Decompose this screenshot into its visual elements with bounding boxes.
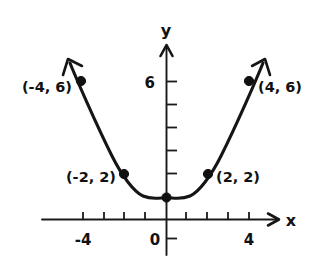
x-axis-group <box>42 212 279 226</box>
point-dot--4-6 <box>76 76 85 85</box>
point-dot--2-2 <box>119 169 128 178</box>
point-label-4-6: (4, 6) <box>258 79 302 95</box>
point-dot-4-6 <box>244 76 253 85</box>
point-label--2-2: (-2, 2) <box>66 169 116 185</box>
y-axis-label: y <box>161 21 172 40</box>
point-label--4-6: (-4, 6) <box>22 79 72 95</box>
origin-label: 0 <box>150 231 160 249</box>
x-axis-label: x <box>286 211 297 230</box>
y-axis-group <box>161 45 178 255</box>
x-tick-label--4: -4 <box>75 231 92 249</box>
y-tick-label-6: 6 <box>145 74 155 92</box>
point-label-2-2: (2, 2) <box>216 169 260 185</box>
point-dot-vertex <box>162 193 171 202</box>
coordinate-plane-svg: y x -4 4 0 6 (-4, 6) (-2, 2) (2, 2) (4, … <box>0 0 314 265</box>
y-axis-ticks <box>167 82 177 239</box>
graph-figure: y x -4 4 0 6 (-4, 6) (-2, 2) (2, 2) (4, … <box>0 0 314 265</box>
point-dot-2-2 <box>203 169 212 178</box>
x-tick-label-4: 4 <box>244 231 254 249</box>
